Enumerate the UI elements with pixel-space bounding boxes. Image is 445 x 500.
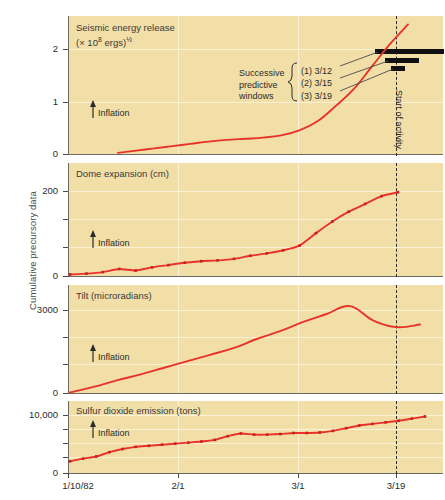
ytick-mark bbox=[63, 457, 68, 458]
start-of-activity-line-panel4 bbox=[396, 401, 397, 474]
inflation-label-tilt: Inflation bbox=[98, 352, 130, 362]
vgridline bbox=[298, 401, 299, 473]
panel-seismic-x-axis bbox=[68, 154, 443, 155]
vgridline bbox=[178, 16, 179, 154]
xtick-mark bbox=[68, 473, 69, 478]
panel-sulfur-y-axis bbox=[68, 401, 69, 473]
vgridline bbox=[298, 163, 299, 276]
ytick-label-sulfur-0: 0 bbox=[6, 467, 58, 478]
ytick-mark bbox=[63, 364, 68, 365]
panel-dome-x-axis bbox=[68, 276, 443, 277]
ytick-mark bbox=[63, 429, 68, 430]
vgridline bbox=[298, 285, 299, 393]
panel-title-seismic: Seismic energy release (× 108 ergs)½ bbox=[76, 22, 175, 49]
panel-title-tilt: Tilt (microradians) bbox=[76, 290, 152, 302]
ytick-mark bbox=[63, 310, 68, 311]
xtick-label-3: 3/19 bbox=[376, 480, 416, 491]
panel-seismic-y-axis bbox=[68, 16, 69, 154]
inflation-label-sulfur: Inflation bbox=[98, 428, 130, 438]
panel-title-seismic-text: Seismic energy release bbox=[76, 22, 175, 33]
ytick-mark bbox=[63, 337, 68, 338]
vgridline bbox=[298, 16, 299, 154]
ytick-label-seismic-0: 0 bbox=[30, 148, 58, 159]
vgridline bbox=[178, 163, 179, 276]
ytick-label-sulfur-10000: 10,000 bbox=[6, 409, 58, 420]
ytick-label-dome-200: 200 bbox=[24, 185, 58, 196]
ytick-label-tilt-0: 0 bbox=[18, 387, 58, 398]
start-of-activity-line-panel2 bbox=[396, 163, 397, 277]
xtick-label-2: 3/1 bbox=[278, 480, 318, 491]
ytick-label-seismic-2: 2 bbox=[30, 43, 58, 54]
predictive-window-bar-3 bbox=[391, 66, 405, 71]
gridline bbox=[68, 310, 443, 311]
ytick-label-tilt-3000: 3000 bbox=[18, 304, 58, 315]
predictive-window-label-1: (1) 3/12 bbox=[301, 66, 332, 76]
vgridline bbox=[178, 285, 179, 393]
successive-windows-line1: Successive bbox=[239, 68, 285, 78]
predictive-window-label-2: (2) 3/15 bbox=[301, 78, 332, 88]
gridline bbox=[68, 191, 443, 192]
ytick-mark bbox=[63, 49, 68, 50]
ytick-mark bbox=[63, 443, 68, 444]
successive-windows-line3: windows bbox=[239, 91, 274, 101]
gridline bbox=[68, 337, 443, 338]
ytick-label-dome-0: 0 bbox=[24, 270, 58, 281]
start-of-activity-line-panel3 bbox=[396, 285, 397, 394]
panel-sulfur-x-axis bbox=[68, 473, 443, 474]
panel-dome-y-axis bbox=[68, 163, 69, 276]
ytick-mark bbox=[63, 154, 68, 155]
successive-windows-label: Successive predictive windows bbox=[239, 68, 285, 103]
ytick-mark bbox=[63, 102, 68, 103]
figure-container: Cumulative precursory data 2 1 0 Seismic… bbox=[0, 0, 445, 500]
inflation-label-seismic: Inflation bbox=[98, 108, 130, 118]
ytick-label-seismic-1: 1 bbox=[30, 96, 58, 107]
predictive-window-bar-2 bbox=[385, 58, 419, 63]
gridline bbox=[68, 219, 443, 220]
ytick-mark bbox=[63, 276, 68, 277]
panel-tilt-x-axis bbox=[68, 393, 443, 394]
ytick-mark bbox=[63, 219, 68, 220]
ytick-mark bbox=[63, 415, 68, 416]
predictive-window-bar-1 bbox=[375, 49, 444, 54]
successive-windows-line2: predictive bbox=[239, 80, 278, 90]
panel-tilt-y-axis bbox=[68, 285, 69, 393]
panel-title-seismic-fraction: ½ bbox=[126, 36, 132, 43]
start-of-activity-label: Start of activity bbox=[394, 90, 404, 149]
predictive-window-label-3: (3) 3/19 bbox=[301, 91, 332, 101]
panel-title-dome: Dome expansion (cm) bbox=[76, 168, 169, 180]
xtick-label-0: 1/10/82 bbox=[48, 480, 108, 491]
xtick-mark bbox=[178, 473, 179, 478]
ytick-mark bbox=[63, 191, 68, 192]
ytick-mark bbox=[63, 247, 68, 248]
panel-title-sulfur: Sulfur dioxide emission (tons) bbox=[76, 405, 201, 417]
figure-y-axis-label: Cumulative precursory data bbox=[27, 156, 38, 346]
gridline bbox=[68, 443, 443, 444]
panel-title-seismic-units-prefix: (× 10 bbox=[76, 37, 98, 48]
gridline bbox=[68, 364, 443, 365]
xtick-mark bbox=[298, 473, 299, 478]
ytick-mark bbox=[63, 393, 68, 394]
gridline bbox=[68, 457, 443, 458]
xtick-label-1: 2/1 bbox=[158, 480, 198, 491]
inflation-label-dome: Inflation bbox=[98, 238, 130, 248]
panel-title-seismic-units-mid: ergs) bbox=[102, 37, 126, 48]
